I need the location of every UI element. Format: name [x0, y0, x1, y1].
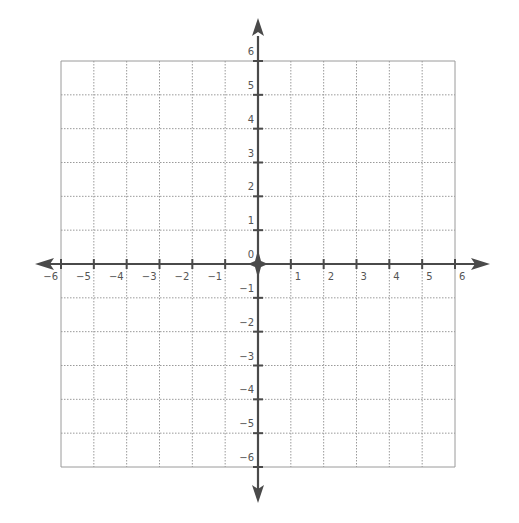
y-axis-label: 0	[248, 249, 254, 260]
y-axis-label: −6	[239, 452, 254, 463]
y-axis-up-arrow-icon	[252, 18, 264, 36]
y-axis-label: 1	[248, 215, 254, 226]
y-axis-label: −4	[239, 384, 254, 395]
y-axis-labels: 6543210−1−2−3−4−5−6	[239, 46, 254, 463]
x-axis-labels: −6−5−4−3−2−1123456	[43, 271, 465, 282]
coordinate-plane: −6−5−4−3−2−1123456 6543210−1−2−3−4−5−6	[0, 0, 519, 523]
y-axis-label: 6	[248, 46, 254, 57]
y-axis-label: 3	[248, 148, 254, 159]
y-axis-label: −5	[239, 418, 254, 429]
y-axis-label: 4	[248, 114, 254, 125]
x-axis-label: −6	[43, 271, 58, 282]
y-axis-label: 2	[248, 181, 254, 192]
x-axis-label: −2	[175, 271, 190, 282]
x-axis-label: −3	[142, 271, 157, 282]
y-axis-label: −3	[239, 351, 254, 362]
x-axis-label: 3	[361, 271, 367, 282]
x-axis-label: −5	[76, 271, 91, 282]
y-axis-label: 5	[248, 80, 254, 91]
x-axis-label: 1	[295, 271, 301, 282]
x-axis-label: 4	[393, 271, 399, 282]
x-axis-label: 2	[328, 271, 334, 282]
x-axis-label: 5	[426, 271, 432, 282]
x-axis-label: 6	[459, 271, 465, 282]
y-axis-label: −2	[239, 317, 254, 328]
x-axis-label: −4	[109, 271, 124, 282]
y-axis-label: −1	[239, 283, 254, 294]
x-axis-label: −1	[207, 271, 222, 282]
